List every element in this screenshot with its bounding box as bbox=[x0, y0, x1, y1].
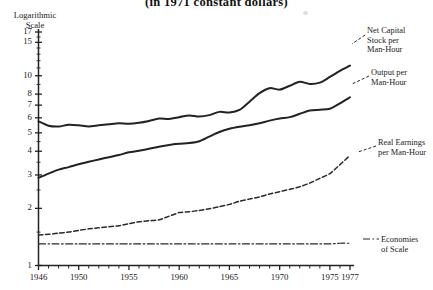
y-tick-label: 2 bbox=[10, 203, 32, 212]
series-line-2 bbox=[39, 155, 351, 234]
y-tick-label: 6 bbox=[10, 113, 32, 122]
series-label-economies-of-scale: Economies of Scale bbox=[381, 235, 418, 254]
x-tick-label: 1977 bbox=[335, 273, 365, 282]
leader-net-capital bbox=[352, 35, 365, 44]
series-label-real-earnings: Real Earnings per Man-Hour bbox=[378, 138, 426, 157]
series-label-output: Output per Man-Hour bbox=[371, 68, 407, 87]
series-label-net-capital-line2: Stock per bbox=[367, 36, 405, 46]
series-label-economies-line1: Economies bbox=[381, 235, 418, 245]
series-label-economies-line2: of Scale bbox=[381, 245, 418, 255]
series-line-0 bbox=[39, 66, 351, 127]
series-label-real-earnings-line1: Real Earnings bbox=[378, 138, 426, 148]
y-tick-label: 15 bbox=[10, 37, 32, 46]
series-label-net-capital-line1: Net Capital bbox=[367, 26, 405, 36]
y-tick-label: 4 bbox=[10, 146, 32, 155]
y-tick-label: 17 bbox=[10, 27, 32, 36]
series-line-1 bbox=[39, 97, 351, 177]
scan-artifact bbox=[303, 11, 308, 15]
y-tick-label: 7 bbox=[10, 100, 32, 109]
x-tick-label: 1946 bbox=[24, 273, 54, 282]
x-tick-label: 1950 bbox=[64, 273, 94, 282]
series-label-net-capital-stock: Net Capital Stock per Man-Hour bbox=[367, 26, 405, 55]
x-tick-label: 1970 bbox=[265, 273, 295, 282]
y-tick-label: 8 bbox=[10, 89, 32, 98]
y-tick-label: 1 bbox=[10, 261, 32, 270]
series-label-output-line1: Output per bbox=[371, 68, 407, 78]
y-tick-label: 3 bbox=[10, 170, 32, 179]
series-label-net-capital-line3: Man-Hour bbox=[367, 45, 405, 55]
leader-real-earnings bbox=[358, 146, 376, 152]
series-label-real-earnings-line2: per Man-Hour bbox=[378, 148, 426, 158]
chart-root: (in 1971 constant dollars) Logarithmic S… bbox=[0, 0, 433, 290]
leader-output bbox=[352, 76, 369, 84]
y-tick-label: 10 bbox=[10, 71, 32, 80]
series-label-output-line2: Man-Hour bbox=[371, 78, 407, 88]
axes-group bbox=[35, 29, 354, 270]
x-tick-label: 1955 bbox=[114, 273, 144, 282]
x-tick-label: 1965 bbox=[214, 273, 244, 282]
series-line-3 bbox=[39, 243, 351, 244]
y-tick-label: 5 bbox=[10, 128, 32, 137]
series-group bbox=[39, 35, 380, 244]
x-tick-label: 1960 bbox=[164, 273, 194, 282]
